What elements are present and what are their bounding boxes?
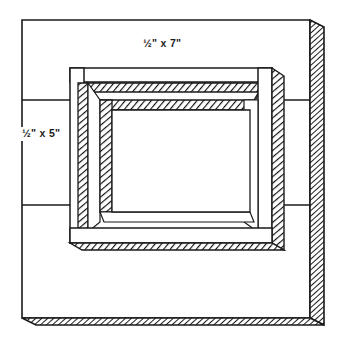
- dimension-label-top: ½" x 7": [140, 37, 184, 51]
- woodworking-diagram: ½" x 7" ½" x 5": [0, 0, 344, 349]
- dimension-label-left: ½" x 5": [19, 127, 63, 141]
- frame-bottom-rail-front: [70, 228, 272, 243]
- frame-left-stile-gap: [88, 83, 100, 232]
- frame-right-stile-hatch: [272, 68, 284, 250]
- drawing-canvas: [0, 0, 344, 349]
- frame-top-rail-front: [70, 68, 272, 82]
- frame-bottom-rail-inner: [100, 212, 254, 222]
- frame-right-stile-outer: [258, 68, 272, 243]
- frame-left-stile-hatch-2: [100, 100, 112, 212]
- outer-board-right-edge: [310, 20, 324, 325]
- frame-opening: [112, 110, 250, 212]
- outer-board-bottom-edge: [22, 318, 324, 325]
- frame-bottom-rail-hatch: [70, 243, 284, 250]
- frame-top-rail-hatch: [78, 83, 264, 92]
- frame-top-rail-inner-hatch: [100, 100, 254, 110]
- frame-left-stile-hatch-1: [78, 83, 88, 232]
